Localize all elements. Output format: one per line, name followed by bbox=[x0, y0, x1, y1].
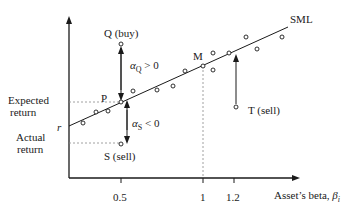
tick-label-1-2: 1.2 bbox=[226, 191, 240, 203]
label-alpha-s: αS < 0 bbox=[132, 117, 159, 134]
alpha-rel: < 0 bbox=[142, 117, 159, 129]
scatter-points bbox=[81, 35, 284, 146]
alpha-rel: > 0 bbox=[142, 59, 159, 71]
tick-label-1: 1 bbox=[200, 191, 206, 203]
label-t-sell: T (sell) bbox=[248, 104, 280, 116]
label-p: P bbox=[101, 92, 107, 104]
tick-label-0-5: 0.5 bbox=[113, 191, 127, 203]
x-axis-label-text: Asset’s beta, bbox=[274, 189, 332, 201]
point-q bbox=[119, 42, 123, 46]
label-actual-return-1: Actual bbox=[16, 131, 45, 143]
label-s-sell: S (sell) bbox=[104, 150, 135, 162]
label-q-buy: Q (buy) bbox=[104, 27, 139, 39]
label-actual-return-2: return bbox=[17, 143, 43, 155]
beta-sub: i bbox=[338, 195, 340, 204]
label-expected-return-2: return bbox=[10, 106, 36, 118]
point-m bbox=[201, 64, 205, 68]
sml-diagram-canvas bbox=[0, 0, 353, 211]
point-p bbox=[119, 100, 123, 104]
label-expected-return-1: Expected bbox=[8, 94, 49, 106]
x-axis-label: Asset’s beta, βi bbox=[274, 189, 340, 206]
label-sml: SML bbox=[290, 13, 313, 25]
point-s bbox=[119, 142, 123, 146]
label-m: M bbox=[193, 50, 203, 62]
label-alpha-q: αQ > 0 bbox=[130, 59, 159, 76]
label-risk-free-r: r bbox=[57, 121, 61, 133]
point-t bbox=[234, 105, 238, 109]
